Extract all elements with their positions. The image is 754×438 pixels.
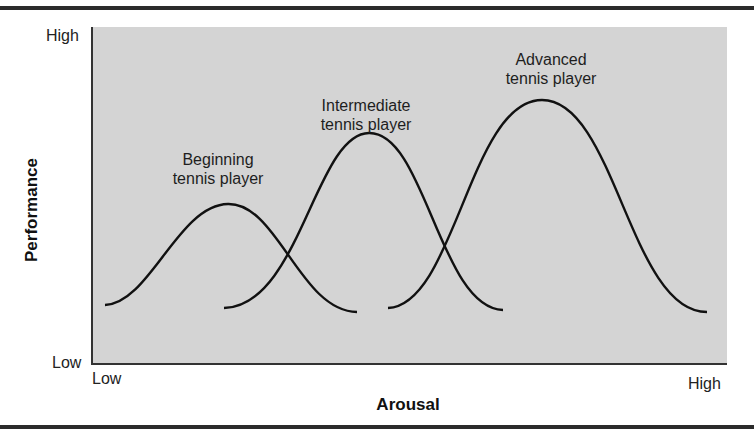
label-intermediate-line1: Intermediate: [321, 96, 412, 115]
y-tick-low: Low: [52, 355, 81, 371]
y-axis-title: Performance: [22, 158, 42, 262]
x-tick-low: Low: [92, 371, 121, 387]
label-intermediate: Intermediate tennis player: [321, 96, 412, 134]
x-tick-high: High: [688, 376, 721, 392]
label-advanced: Advanced tennis player: [506, 50, 597, 88]
bottom-rule: [0, 425, 754, 429]
top-rule: [0, 6, 754, 10]
label-beginning-line2: tennis player: [173, 169, 264, 188]
label-advanced-line1: Advanced: [506, 50, 597, 69]
plot-area: [91, 27, 727, 365]
x-axis-title: Arousal: [376, 395, 439, 415]
label-beginning-line1: Beginning: [173, 150, 264, 169]
label-intermediate-line2: tennis player: [321, 115, 412, 134]
label-beginning: Beginning tennis player: [173, 150, 264, 188]
label-advanced-line2: tennis player: [506, 69, 597, 88]
y-tick-high: High: [46, 28, 79, 44]
